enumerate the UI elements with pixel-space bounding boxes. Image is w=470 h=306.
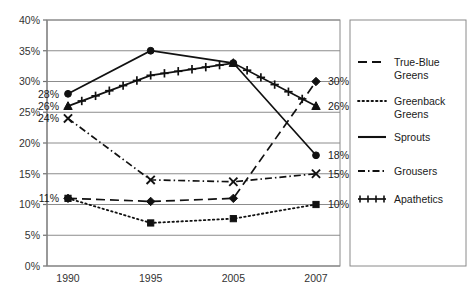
marker-greenback-greens — [230, 216, 236, 222]
y-tick-label: 5% — [25, 229, 40, 241]
marker-greenback-greens — [148, 220, 154, 226]
y-tick-label: 40% — [19, 14, 40, 26]
legend-label-true-blue-greens: True-Blue — [394, 56, 440, 68]
legend-label-apathetics: Apathetics — [394, 193, 443, 205]
y-tick-label: 35% — [19, 45, 40, 57]
chart-container: 0%5%10%15%20%25%30%35%40% 19901995200520… — [0, 0, 470, 306]
legend-label-grousers: Grousers — [394, 165, 437, 177]
legend-label-greenback-greens: Greenback — [394, 95, 446, 107]
data-label: 26% — [38, 100, 59, 112]
legend-label-true-blue-greens: Greens — [394, 69, 428, 81]
data-label: 24% — [38, 112, 59, 124]
x-tick-label: 1995 — [139, 272, 163, 284]
y-tick-label: 20% — [19, 137, 40, 149]
y-tick-label: 25% — [19, 106, 40, 118]
data-label: 18% — [328, 149, 349, 161]
data-label: 28% — [38, 88, 59, 100]
data-label: 10% — [328, 198, 349, 210]
chart-background — [0, 0, 470, 306]
legend-label-sprouts: Sprouts — [394, 131, 430, 143]
marker-greenback-greens — [313, 201, 319, 207]
data-label: 15% — [328, 168, 349, 180]
data-label: 26% — [328, 100, 349, 112]
x-tick-label: 2007 — [304, 272, 328, 284]
x-tick-label: 1990 — [56, 272, 80, 284]
marker-greenback-greens — [65, 195, 71, 201]
marker-sprouts — [65, 90, 72, 97]
legend-label-greenback-greens: Greens — [394, 108, 428, 120]
y-tick-label: 15% — [19, 168, 40, 180]
line-chart: 0%5%10%15%20%25%30%35%40% 19901995200520… — [0, 0, 470, 306]
marker-sprouts — [313, 152, 320, 159]
y-tick-label: 0% — [25, 260, 40, 272]
y-tick-label: 10% — [19, 198, 40, 210]
y-tick-label: 30% — [19, 75, 40, 87]
data-label: 30% — [328, 75, 349, 87]
x-tick-label: 2005 — [222, 272, 246, 284]
marker-sprouts — [147, 47, 154, 54]
data-label: 11% — [39, 192, 59, 204]
